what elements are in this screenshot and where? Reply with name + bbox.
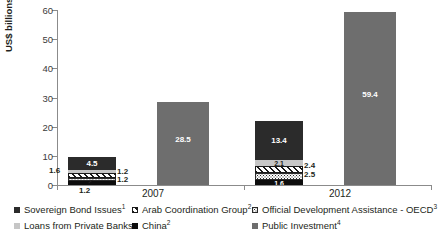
legend-item-loans-from-private-banks[interactable]: Loans from Private Banks — [14, 220, 133, 232]
value-label-2012-loans: 2.1 — [255, 160, 303, 166]
segment-2012-bonds[interactable]: 13.4 — [255, 121, 303, 160]
y-tick-label-20: 20 — [42, 121, 53, 132]
chart-legend: Sovereign Bond Issues1 Arab Coordination… — [14, 204, 432, 236]
legend-label-official-development-assistance: Official Development Assistance - OECD3 — [262, 204, 437, 216]
x-axis-label-2007: 2007 — [123, 188, 183, 199]
legend-footnote-2: 2 — [248, 203, 252, 210]
legend-swatch-acg-icon — [132, 207, 138, 213]
legend-footnote-5: 2 — [167, 219, 171, 226]
y-tick-label-10: 10 — [42, 150, 53, 161]
y-tick-label-50: 50 — [42, 34, 53, 45]
legend-footnote-3: 3 — [433, 203, 437, 210]
y-tick-label-60: 60 — [42, 5, 53, 16]
y-tick-label-40: 40 — [42, 63, 53, 74]
value-label-2012-oda: 2.5 — [304, 171, 315, 179]
legend-item-official-development-assistance[interactable]: Official Development Assistance - OECD3 — [252, 204, 437, 216]
y-axis-title: US$ billions — [3, 0, 14, 52]
legend-item-sovereign-bond-issues[interactable]: Sovereign Bond Issues1 — [14, 204, 125, 216]
value-label-2012-acg: 2.4 — [304, 162, 315, 170]
legend-swatch-bond-icon — [14, 207, 20, 213]
value-label-2012-bonds: 13.4 — [255, 137, 303, 145]
value-label-2007-oda: 1.2 — [117, 176, 128, 184]
x-axis-tick-mid — [244, 185, 245, 190]
legend-swatch-public-icon — [252, 223, 258, 229]
bar-2012-public-investment[interactable]: 59.4 — [344, 12, 396, 185]
value-label-2007-china: 1.2 — [79, 187, 90, 195]
value-label-2012-china: 1.6 — [255, 180, 303, 185]
segment-2012-acg[interactable] — [255, 166, 303, 173]
value-label-2012-public: 59.4 — [344, 91, 396, 99]
segment-2007-acg[interactable] — [68, 173, 116, 178]
bar-2007-public-investment[interactable]: 28.5 — [157, 102, 209, 185]
legend-item-public-investment[interactable]: Public Investment4 — [252, 220, 341, 232]
legend-label-china: China2 — [142, 220, 170, 232]
segment-2007-bonds[interactable]: 4.5 — [68, 157, 116, 170]
x-axis-tick-right — [431, 185, 432, 190]
legend-footnote-6: 4 — [337, 219, 341, 226]
legend-swatch-china-icon — [132, 223, 138, 229]
segment-2007-china[interactable] — [68, 181, 116, 185]
legend-item-arab-coordination-group[interactable]: Arab Coordination Group2 — [132, 204, 251, 216]
legend-footnote-1: 1 — [122, 203, 126, 210]
y-tick-label-30: 30 — [42, 92, 53, 103]
legend-label-arab-coordination-group: Arab Coordination Group2 — [142, 204, 251, 216]
value-label-2007-bonds: 4.5 — [68, 160, 116, 168]
y-axis-line — [57, 10, 58, 186]
stacked-bar-2012[interactable]: 1.6 2.1 13.4 — [255, 121, 303, 185]
legend-item-china[interactable]: China2 — [132, 220, 170, 232]
value-label-2007-acg: 1.6 — [49, 167, 60, 175]
segment-2012-oda[interactable] — [255, 173, 303, 180]
x-axis-label-2012: 2012 — [310, 188, 370, 199]
legend-label-loans-from-private-banks: Loans from Private Banks — [24, 220, 133, 232]
legend-swatch-loans-icon — [14, 223, 20, 229]
x-axis-tick-left — [57, 185, 58, 190]
y-tick-label-0: 0 — [48, 180, 53, 191]
legend-swatch-oda-icon — [252, 207, 258, 213]
legend-label-public-investment: Public Investment4 — [262, 220, 341, 232]
value-label-2007-public: 28.5 — [157, 136, 209, 144]
segment-2007-loans[interactable] — [68, 170, 116, 174]
bar-chart: US$ billions 60 50 40 30 20 10 0 — [0, 0, 442, 240]
legend-label-sovereign-bond-issues: Sovereign Bond Issues1 — [24, 204, 125, 216]
segment-2012-loans[interactable]: 2.1 — [255, 160, 303, 166]
segment-2012-china[interactable]: 1.6 — [255, 180, 303, 185]
stacked-bar-2007[interactable]: 4.5 — [68, 157, 116, 185]
